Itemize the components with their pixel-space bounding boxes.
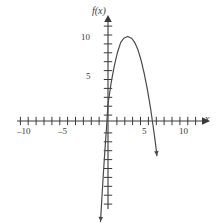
x-tick-label-10: 10 bbox=[179, 127, 188, 136]
graph-figure: –10 –5 5 10 5 10 x f(x) bbox=[0, 0, 219, 223]
function-curve bbox=[101, 36, 157, 221]
y-tick-label-5: 5 bbox=[86, 72, 91, 81]
y-tick-label-10: 10 bbox=[81, 33, 90, 42]
x-tick-label-5: 5 bbox=[142, 127, 147, 136]
curve-arrowhead-left bbox=[98, 217, 103, 222]
parabola-plot bbox=[0, 0, 219, 223]
y-axis-arrowhead bbox=[104, 15, 112, 22]
x-tick-label-neg5: –5 bbox=[58, 127, 67, 136]
y-axis-label: f(x) bbox=[92, 6, 106, 16]
x-axis-label: x bbox=[205, 114, 209, 124]
y-axis-ticks bbox=[104, 26, 112, 204]
x-tick-label-neg10: –10 bbox=[17, 127, 31, 136]
